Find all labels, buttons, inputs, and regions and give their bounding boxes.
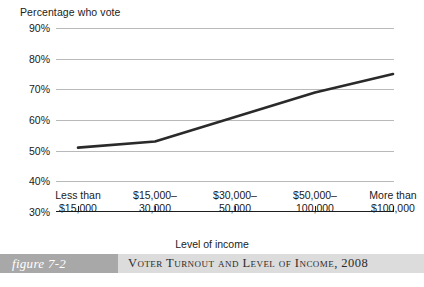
y-tick-label-80: 80%	[29, 53, 50, 64]
y-tick-label-60: 60%	[29, 115, 50, 126]
x-tick-label-2: $30,000–50,000	[213, 189, 257, 214]
x-tick-label-line: $15,000	[55, 202, 101, 215]
x-tick-label-4: More than$100,000	[369, 189, 416, 214]
x-tick-label-line: 30,000	[133, 202, 177, 215]
y-tick-label-40: 40%	[29, 176, 50, 187]
figure-caption-bar: figure 7-2 Voter Turnout and Level of In…	[0, 254, 424, 273]
plot-area: 90%80%70%60%50%40%30%	[56, 28, 394, 212]
figure-caption-title: Voter Turnout and Level of Income, 2008	[118, 256, 368, 271]
data-series-line	[56, 28, 394, 212]
x-tick-label-line: 50,000	[213, 202, 257, 215]
y-tick-label-30: 30%	[29, 207, 50, 218]
x-tick-label-line: $15,000–	[133, 189, 177, 202]
x-tick-label-line: Less than	[55, 189, 101, 202]
x-tick-label-line: More than	[369, 189, 416, 202]
voter-turnout-polyline	[78, 74, 393, 148]
x-tick-label-3: $50,000–100,000	[293, 189, 337, 214]
x-tick-label-1: $15,000–30,000	[133, 189, 177, 214]
x-tick-label-line: 100,000	[293, 202, 337, 215]
page-bleed-text	[0, 279, 424, 287]
x-tick-label-line: $100,000	[369, 202, 416, 215]
y-tick-label-90: 90%	[29, 23, 50, 34]
x-tick-label-line: $50,000–	[293, 189, 337, 202]
figure-voter-turnout: Percentage who vote 90%80%70%60%50%40%30…	[0, 0, 424, 287]
figure-number-badge: figure 7-2	[0, 254, 118, 273]
x-axis-title: Level of income	[0, 238, 424, 250]
y-tick-label-70: 70%	[29, 84, 50, 95]
y-axis-title: Percentage who vote	[20, 6, 121, 18]
x-tick-label-line: $30,000–	[213, 189, 257, 202]
y-tick-label-50: 50%	[29, 145, 50, 156]
x-tick-label-0: Less than$15,000	[55, 189, 101, 214]
